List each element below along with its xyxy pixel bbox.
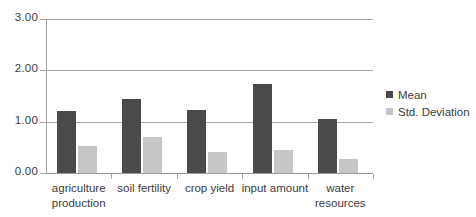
legend-swatch-icon <box>386 91 393 98</box>
bar-group <box>177 19 242 173</box>
bar-mean[interactable] <box>57 111 76 173</box>
bar-mean[interactable] <box>253 84 272 173</box>
bar-std-deviation[interactable] <box>143 137 162 173</box>
chart-legend: MeanStd. Deviation <box>386 86 476 120</box>
y-axis-tick-label: 1.00 <box>2 114 38 126</box>
bar-group <box>111 19 176 173</box>
y-tick-1.00 <box>40 122 46 123</box>
y-axis-tick-label: 0.00 <box>2 165 38 177</box>
gridline-0.00 <box>46 173 373 174</box>
bar-mean[interactable] <box>187 110 206 173</box>
y-tick-3.00 <box>40 19 46 20</box>
bar-std-deviation[interactable] <box>78 146 97 173</box>
x-axis-tick <box>242 174 243 179</box>
x-axis-tick <box>373 174 374 179</box>
bar-std-deviation[interactable] <box>208 152 227 173</box>
bar-group <box>308 19 373 173</box>
y-axis-tick-label: 3.00 <box>2 11 38 23</box>
bar-mean[interactable] <box>318 119 337 173</box>
x-axis-category-label: water resources <box>300 181 381 210</box>
x-axis-tick <box>177 174 178 179</box>
legend-item[interactable]: Std. Deviation <box>386 103 476 120</box>
bar-group <box>46 19 111 173</box>
y-axis-labels: 0.001.002.003.00 <box>0 0 38 217</box>
y-axis-tick-label: 2.00 <box>2 62 38 74</box>
legend-label: Mean <box>398 89 427 101</box>
legend-swatch-icon <box>386 108 393 115</box>
legend-item[interactable]: Mean <box>386 86 476 103</box>
y-tick-2.00 <box>40 70 46 71</box>
x-axis-tick <box>308 174 309 179</box>
legend-label: Std. Deviation <box>398 106 470 118</box>
bar-std-deviation[interactable] <box>339 159 358 173</box>
bar-chart: 0.001.002.003.00 MeanStd. Deviation agri… <box>0 0 476 217</box>
bar-mean[interactable] <box>122 99 141 173</box>
bar-std-deviation[interactable] <box>274 150 293 173</box>
bar-group <box>242 19 307 173</box>
x-axis-tick <box>111 174 112 179</box>
plot-area <box>46 19 373 173</box>
y-tick-0.00 <box>40 173 46 174</box>
